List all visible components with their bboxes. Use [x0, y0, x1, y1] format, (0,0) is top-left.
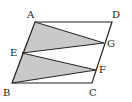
label-e: E: [10, 47, 17, 58]
label-c: C: [89, 87, 97, 98]
label-d: D: [112, 9, 120, 20]
shaded-triangle-ebf: [12, 53, 96, 83]
geometry-diagram: A D E G F B C: [0, 0, 132, 102]
label-f: F: [99, 64, 106, 75]
label-b: B: [3, 87, 10, 98]
label-a: A: [26, 9, 35, 20]
label-g: G: [107, 38, 115, 49]
